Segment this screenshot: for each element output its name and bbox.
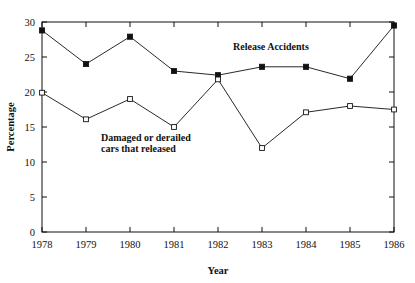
y-tick-label: 10: [25, 157, 36, 168]
damaged-derailed-label-line2: cars that released: [101, 143, 176, 154]
data-point-open: [348, 104, 353, 109]
series-line-1: [42, 26, 394, 79]
x-tick-label: 1984: [296, 239, 318, 250]
x-tick-label: 1986: [384, 239, 405, 250]
y-tick-label: 20: [25, 87, 36, 98]
release-accidents-label: Release Accidents: [233, 41, 309, 52]
data-point-open: [216, 77, 221, 82]
y-tick-label: 5: [30, 192, 35, 203]
x-tick-label: 1979: [76, 239, 97, 250]
x-tick-label: 1983: [252, 239, 273, 250]
y-tick-label: 25: [25, 52, 36, 63]
series-line-2: [42, 79, 394, 148]
data-point-filled: [391, 23, 396, 28]
data-point-open: [84, 117, 89, 122]
data-point-open: [40, 90, 45, 95]
data-point-filled: [259, 64, 264, 69]
x-tick-label: 1980: [120, 239, 141, 250]
y-axis-title: Percentage: [5, 102, 16, 152]
data-point-open: [260, 146, 265, 151]
line-chart: 0510152025301978197919801981198219831984…: [0, 0, 415, 283]
data-point-filled: [347, 76, 352, 81]
y-tick-label: 0: [30, 227, 35, 238]
data-point-open: [392, 107, 397, 112]
plot-frame: [42, 22, 394, 232]
damaged-derailed-label-line1: Damaged or derailed: [101, 132, 191, 143]
chart-container: 0510152025301978197919801981198219831984…: [0, 0, 415, 283]
y-tick-label: 15: [25, 122, 36, 133]
data-point-filled: [39, 28, 44, 33]
data-point-open: [304, 110, 309, 115]
data-point-filled: [303, 64, 308, 69]
data-point-filled: [171, 68, 176, 73]
data-point-filled: [83, 61, 88, 66]
x-tick-label: 1982: [208, 239, 229, 250]
data-point-open: [172, 125, 177, 130]
x-axis-title: Year: [208, 265, 229, 276]
x-tick-label: 1981: [164, 239, 185, 250]
x-tick-label: 1985: [340, 239, 361, 250]
y-tick-label: 30: [25, 17, 36, 28]
data-point-filled: [127, 34, 132, 39]
data-point-open: [128, 97, 133, 102]
x-tick-label: 1978: [32, 239, 53, 250]
